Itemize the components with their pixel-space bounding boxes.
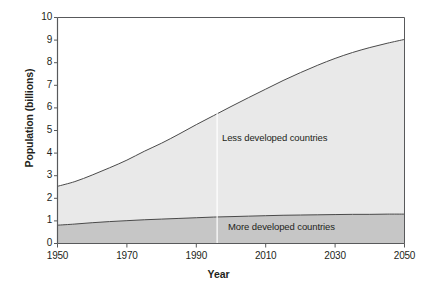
y-tick-label: 0	[30, 237, 52, 248]
y-axis-title: Population (billions)	[23, 33, 35, 203]
x-axis-ticks	[58, 244, 405, 248]
annotation-less-developed: Less developed countries	[222, 132, 327, 143]
x-tick-label: 2030	[312, 250, 358, 261]
chart-canvas	[0, 0, 437, 290]
x-tick-label: 2010	[243, 250, 289, 261]
y-tick-label: 10	[30, 11, 52, 22]
y-tick-label: 1	[30, 214, 52, 225]
x-tick-label: 1950	[35, 250, 81, 261]
x-tick-label: 1990	[173, 250, 219, 261]
x-tick-label: 1970	[104, 250, 150, 261]
plot-area	[58, 18, 405, 244]
annotation-more-developed: More developed countries	[228, 221, 335, 232]
x-axis-title: Year	[0, 268, 437, 280]
population-area-chart: 012345678910 195019701990201020302050 Po…	[0, 0, 437, 290]
x-tick-label: 2050	[382, 250, 428, 261]
